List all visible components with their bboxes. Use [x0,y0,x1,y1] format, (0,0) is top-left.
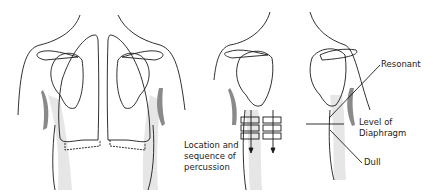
right-lung [107,35,150,142]
left-shoulder-outline [18,15,80,115]
diaphragm-level-label: Level of Diaphragm [359,117,419,139]
dull-label: Dull [364,157,381,168]
left-scapula [37,51,78,60]
left-side-line [53,125,55,190]
side-dark-shadow [228,88,237,125]
left-flank-shadow [48,95,72,190]
resonant-label: Resonant [381,59,421,70]
right-scapula-body [117,53,149,108]
scapula-body [237,51,273,106]
shoulder-outline [214,12,270,80]
spine-shadow [330,95,346,180]
scapula-spine [320,49,357,60]
panel-diaphragm-level [306,12,380,180]
left-lung [59,35,99,142]
right-arrowhead [271,148,275,153]
scapula-body [310,49,346,106]
resonant-pointer [329,65,380,118]
right-scapula [122,51,163,60]
left-dark-shadow [41,90,48,130]
location-sequence-label: Location and sequence of percussion [184,140,254,173]
panel-lungs [18,15,185,190]
side-dark-shadow [347,88,355,126]
